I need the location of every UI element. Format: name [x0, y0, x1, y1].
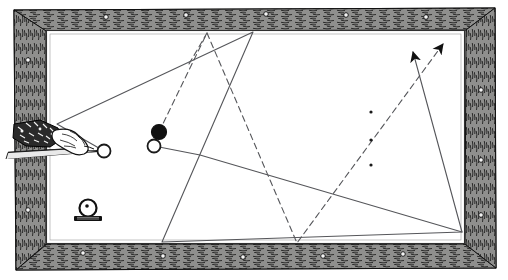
- rail-stud-3: [241, 255, 246, 260]
- table-spot-2: [369, 138, 372, 141]
- wooden-rail-frame: [14, 8, 496, 270]
- rail-stud-1: [81, 251, 86, 256]
- table-spot-3: [369, 163, 372, 166]
- rail-stud-11: [26, 58, 31, 63]
- table-cloth: [47, 31, 465, 244]
- rail-stud-9: [344, 13, 349, 18]
- cue-ball: [98, 145, 111, 158]
- rail-stud-15: [479, 158, 484, 163]
- bottom-rail: [16, 244, 496, 270]
- rail-stud-16: [479, 213, 484, 218]
- table-spot-1: [369, 110, 372, 113]
- ball-stand-base: [74, 216, 102, 221]
- rail-stud-6: [104, 15, 109, 20]
- billiards-diagram-figure: [0, 0, 508, 280]
- diagram-canvas: [0, 0, 508, 280]
- rail-stud-13: [26, 208, 31, 213]
- rail-stud-8: [264, 12, 269, 17]
- rail-stud-10: [424, 15, 429, 20]
- rail-stud-14: [479, 88, 484, 93]
- rail-stud-7: [184, 13, 189, 18]
- ball-center-dot: [85, 204, 89, 208]
- rail-stud-4: [321, 254, 326, 259]
- object-ball-black: [152, 125, 167, 140]
- right-rail: [465, 8, 496, 268]
- object-ball-white: [148, 140, 161, 153]
- rail-stud-5: [401, 252, 406, 257]
- top-rail: [14, 8, 495, 31]
- rail-stud-2: [161, 254, 166, 259]
- spotted-ball: [80, 200, 97, 217]
